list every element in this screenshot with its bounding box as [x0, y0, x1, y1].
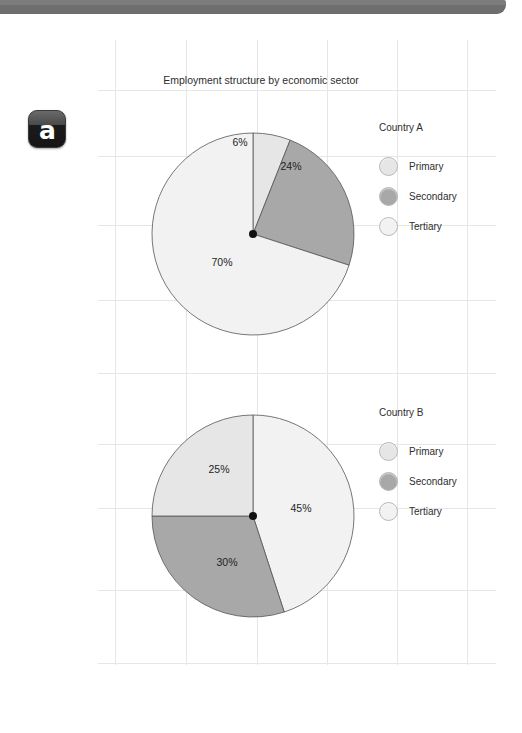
- legend-title-country-a: Country A: [379, 122, 457, 133]
- legend-label-primary: Primary: [409, 446, 443, 457]
- legend-title-country-b: Country B: [379, 407, 457, 418]
- legend-swatch-tertiary: [379, 502, 398, 521]
- legend-label-tertiary: Tertiary: [409, 221, 442, 232]
- legend-item-tertiary: Tertiary: [379, 217, 457, 236]
- legend-label-secondary: Secondary: [409, 191, 457, 202]
- legend-swatch-primary: [379, 442, 398, 461]
- pie-slice-label: 24%: [280, 160, 301, 172]
- legend-label-secondary: Secondary: [409, 476, 457, 487]
- legend-item-primary: Primary: [379, 157, 457, 176]
- legend-swatch-primary: [379, 157, 398, 176]
- pie-slice-label: 45%: [290, 502, 311, 514]
- legend-swatch-tertiary: [379, 217, 398, 236]
- pie-slice-label: 70%: [211, 256, 232, 268]
- pie-center-dot: [249, 512, 257, 520]
- legend-item-tertiary: Tertiary: [379, 502, 457, 521]
- legend-swatch-secondary: [379, 187, 398, 206]
- pie-slice-label: 25%: [208, 463, 229, 475]
- pie-slice-primary: [152, 415, 253, 516]
- legend-item-secondary: Secondary: [379, 472, 457, 491]
- page-root: a Employment structure by economic secto…: [0, 0, 522, 733]
- legend-swatch-secondary: [379, 472, 398, 491]
- pie-slice-label: 30%: [216, 556, 237, 568]
- legend-item-primary: Primary: [379, 442, 457, 461]
- legend-country-b: Country B Primary Secondary Tertiary: [379, 407, 457, 532]
- legend-label-tertiary: Tertiary: [409, 506, 442, 517]
- legend-item-secondary: Secondary: [379, 187, 457, 206]
- legend-label-primary: Primary: [409, 161, 443, 172]
- pie-center-dot: [249, 230, 257, 238]
- legend-country-a: Country A Primary Secondary Tertiary: [379, 122, 457, 247]
- pie-slice-label: 6%: [232, 136, 247, 148]
